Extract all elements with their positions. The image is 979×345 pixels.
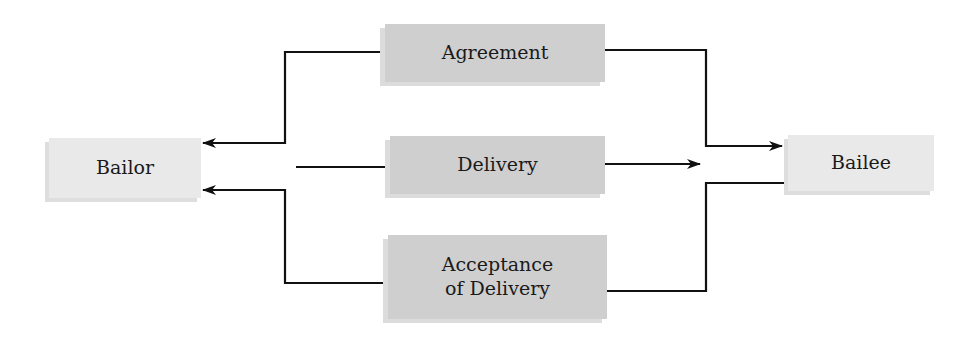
bailor-label: Bailor (96, 156, 154, 180)
delivery-box: Delivery (390, 136, 605, 194)
acceptance-of-delivery-box: Acceptance of Delivery (388, 235, 607, 319)
acceptance-label-line1: Acceptance (442, 253, 554, 277)
delivery-label: Delivery (457, 153, 537, 177)
acceptance-to-bailor-arrow (203, 190, 388, 283)
agreement-to-bailee-arrow (605, 50, 782, 146)
acceptance-label-line2: of Delivery (445, 277, 550, 301)
bailor-box: Bailor (49, 138, 201, 198)
bailee-label: Bailee (831, 151, 891, 175)
agreement-label: Agreement (442, 41, 549, 65)
bailee-to-acceptance-line (607, 183, 788, 291)
bailee-box: Bailee (788, 135, 934, 191)
agreement-box: Agreement (385, 24, 605, 82)
agreement-to-bailor-arrow (203, 52, 382, 143)
